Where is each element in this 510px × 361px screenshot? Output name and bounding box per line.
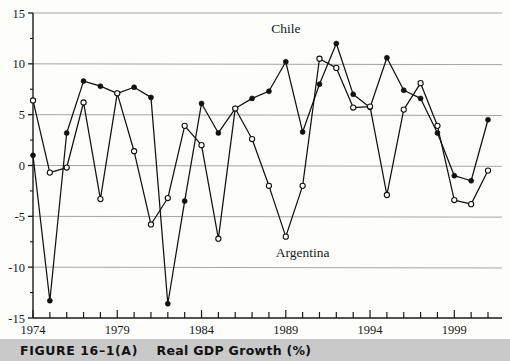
data-point-argentina [47,170,52,175]
data-point-argentina [216,236,221,241]
gridline-y-10 [33,64,502,65]
data-point-argentina [334,65,339,70]
data-point-argentina [165,195,170,200]
x-tick-label-1979: 1979 [105,323,130,337]
x-tick-label-1984: 1984 [189,323,215,337]
data-point-chile [283,59,288,64]
data-point-chile [435,130,440,135]
data-point-chile [199,101,204,106]
data-point-argentina [384,192,389,197]
x-tick-label-1989: 1989 [273,323,298,337]
x-axis-labels-group: 197419791984198919941999 [21,323,467,337]
data-point-chile [132,85,137,90]
y-axis-labels-group: -15-10-5051015 [8,7,25,326]
data-point-argentina [435,123,440,128]
data-point-chile [266,89,271,94]
gridline-y--10 [33,267,502,268]
data-point-argentina [199,143,204,148]
data-point-argentina [81,100,86,105]
gdp-growth-line-chart: -15-10-5051015 197419791984198919941999 … [0,0,510,361]
x-tick-label-1999: 1999 [442,323,467,337]
gridline-y-0 [33,166,502,167]
data-point-chile [250,96,255,101]
data-point-chile [165,301,170,306]
data-point-argentina [367,104,372,109]
y-tick-label-0: 0 [19,159,25,173]
data-point-argentina [317,56,322,61]
data-point-chile [401,88,406,93]
data-point-chile [98,84,103,89]
x-axis-ticks-group [33,310,488,318]
data-point-argentina [283,234,288,239]
gridline-y-5 [33,115,502,116]
data-point-argentina [233,106,238,111]
data-point-argentina [98,196,103,201]
y-tick-label-15: 15 [13,7,26,21]
data-point-argentina [418,81,423,86]
data-point-argentina [30,98,35,103]
data-point-chile [486,117,491,122]
data-point-chile [64,130,69,135]
x-tick-label-1974: 1974 [21,323,47,337]
figure-caption-label: FIGURE 16–1(A) [20,343,138,358]
data-point-argentina [249,136,254,141]
data-point-chile [452,173,457,178]
data-point-chile [334,41,339,46]
figure-caption-title: Real GDP Growth (%) [157,343,312,358]
figure-caption: FIGURE 16–1(A) Real GDP Growth (%) [0,343,311,358]
data-point-chile [81,79,86,84]
data-point-chile [300,129,305,134]
data-point-argentina [485,168,490,173]
data-point-chile [351,92,356,97]
data-point-chile [418,96,423,101]
data-point-argentina [182,123,187,128]
gridline-y--5 [33,216,502,217]
data-point-chile [47,298,52,303]
data-point-argentina [351,105,356,110]
data-point-argentina [401,107,406,112]
data-point-argentina [300,183,305,188]
gridlines-group [33,13,502,268]
y-tick-label-5: 5 [19,108,25,122]
annotation-argentina: Argentina [276,245,330,260]
data-point-chile [148,95,153,100]
data-point-argentina [132,149,137,154]
y-axis-ticks-group [28,13,33,318]
data-point-argentina [452,197,457,202]
data-point-argentina [64,165,69,170]
data-point-chile [182,199,187,204]
x-tick-label-1994: 1994 [358,323,384,337]
data-point-argentina [266,183,271,188]
y-tick-label--5: -5 [15,210,25,224]
figure-container: -15-10-5051015 197419791984198919941999 … [0,0,510,361]
data-point-argentina [148,222,153,227]
data-point-chile [31,153,36,158]
y-tick-label--10: -10 [8,261,25,275]
data-point-argentina [115,91,120,96]
series-markers-group [30,41,490,306]
data-point-chile [384,55,389,60]
annotation-chile: Chile [271,21,300,36]
data-point-chile [469,178,474,183]
y-tick-label-10: 10 [13,57,26,71]
data-point-argentina [469,202,474,207]
data-point-chile [216,130,221,135]
figure-caption-bar: FIGURE 16–1(A) Real GDP Growth (%) [0,339,510,361]
data-point-chile [317,82,322,87]
